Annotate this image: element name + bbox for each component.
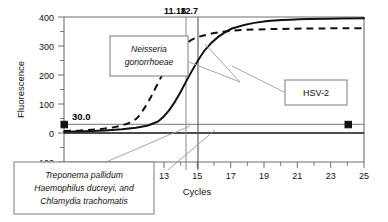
neisseria-box-rect[interactable] <box>110 36 188 76</box>
y-ticklabel-200: 200 <box>39 71 54 81</box>
neisseria-box-line-2: gonorrhoeae <box>125 57 174 67</box>
negatives-box-line-1: Treponema pallidum <box>45 170 123 180</box>
y-axis-title: Fluorescence <box>15 61 26 118</box>
x-ticklabel-25: 25 <box>359 171 369 181</box>
x-ticklabel-21: 21 <box>292 171 302 181</box>
threshold-marker-left[interactable] <box>61 121 68 128</box>
x-axis-title: Cycles <box>183 186 212 197</box>
ct-label-hsv2: 12.7 <box>180 6 198 16</box>
hsv2-box-label: HSV-2 <box>303 88 329 98</box>
annotation-box-hsv2[interactable]: HSV-2 <box>285 80 347 105</box>
y-ticklabel-400: 400 <box>39 13 54 23</box>
y-ticklabel-100: 100 <box>39 100 54 110</box>
chart-svg: 400 300 200 100 0 -100 Fluorescence 9 11… <box>0 0 388 222</box>
threshold-marker-right[interactable] <box>345 121 352 128</box>
threshold-value-label: 30.0 <box>72 111 91 122</box>
x-ticklabel-23: 23 <box>326 171 336 181</box>
amplification-plot-figure: 400 300 200 100 0 -100 Fluorescence 9 11… <box>0 0 388 222</box>
negatives-box-line-2: Haemophilus ducreyi, and <box>34 183 134 193</box>
negatives-box-line-3: Chlamydia trachomatis <box>40 196 128 206</box>
x-ticklabel-19: 19 <box>259 171 269 181</box>
neisseria-box-line-1: Neisseria <box>131 44 167 54</box>
y-ticklabel-0: 0 <box>49 129 54 139</box>
y-ticklabel-300: 300 <box>39 42 54 52</box>
x-ticklabel-17: 17 <box>226 171 236 181</box>
annotation-box-neisseria[interactable]: Neisseria gonorrhoeae <box>110 36 188 76</box>
annotation-box-negatives[interactable]: Treponema pallidum Haemophilus ducreyi, … <box>14 162 154 214</box>
x-ticklabel-15: 15 <box>192 171 202 181</box>
x-ticklabel-13: 13 <box>159 171 169 181</box>
